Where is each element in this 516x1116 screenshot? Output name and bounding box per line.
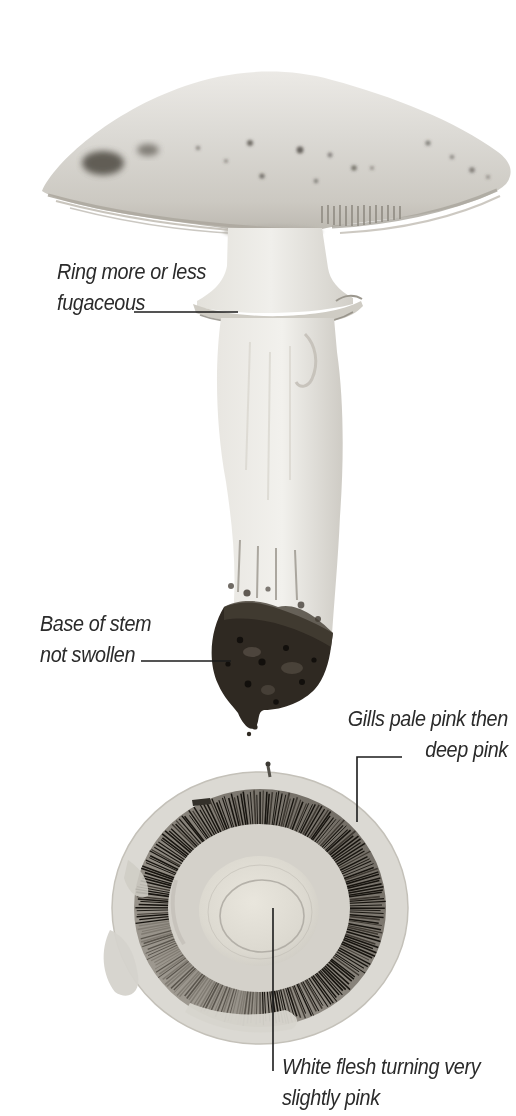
callout-flesh-line1: White flesh turning very xyxy=(282,1051,480,1082)
callout-gills-line2: deep pink xyxy=(348,734,508,765)
callout-gills: Gills pale pink then deep pink xyxy=(348,703,508,765)
cap-underside-photo xyxy=(104,762,408,1045)
mushroom-illustration xyxy=(0,0,516,1116)
callout-stem-base: Base of stem not swollen xyxy=(40,608,151,670)
stem-lower xyxy=(217,318,343,650)
callout-ring: Ring more or less fugaceous xyxy=(57,256,206,318)
mushroom-cap xyxy=(42,72,511,229)
callout-stem-base-line1: Base of stem xyxy=(40,608,151,639)
callout-stem-base-line2: not swollen xyxy=(40,639,151,670)
callout-flesh: White flesh turning very slightly pink xyxy=(282,1051,480,1113)
callout-flesh-line2: slightly pink xyxy=(282,1082,480,1113)
callout-ring-line2: fugaceous xyxy=(57,287,206,318)
field-guide-mushroom-plate: Ring more or less fugaceous Base of stem… xyxy=(0,0,516,1116)
flesh-disc xyxy=(199,856,319,966)
callout-gills-line1: Gills pale pink then xyxy=(348,703,508,734)
stem-upper xyxy=(197,228,353,313)
callout-ring-line1: Ring more or less xyxy=(57,256,206,287)
